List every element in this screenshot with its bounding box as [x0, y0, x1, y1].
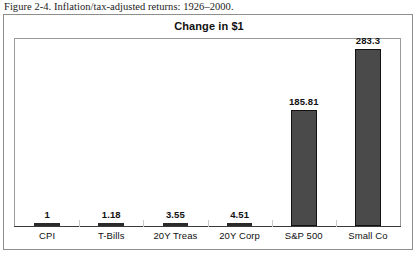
- bar-value-label: 283.3: [356, 35, 380, 46]
- bar-rect: [291, 110, 317, 226]
- bar-small-co: [355, 39, 381, 226]
- figure-box: Change in $1 11.183.554.51185.81283.3 CP…: [3, 14, 413, 250]
- bar-cpi: [34, 39, 60, 226]
- bar-value-label: 4.51: [230, 209, 249, 220]
- axis-tick: [143, 220, 144, 227]
- bar-value-label: 185.81: [289, 96, 319, 107]
- category-label-20y-treas: 20Y Treas: [143, 230, 207, 241]
- bar-20y-treas: [163, 39, 189, 226]
- bar-s-p-500: [291, 39, 317, 226]
- bar-rect: [163, 223, 189, 226]
- category-label-small-co: Small Co: [336, 230, 400, 241]
- figure-caption: Figure 2-4. Inflation/tax-adjusted retur…: [4, 0, 416, 13]
- bar-rect: [355, 49, 381, 226]
- chart-title: Change in $1: [4, 20, 414, 32]
- category-label-20y-corp: 20Y Corp: [208, 230, 272, 241]
- bar-20y-corp: [227, 39, 253, 226]
- bar-value-label: 3.55: [166, 209, 185, 220]
- bar-value-label: 1: [44, 209, 49, 220]
- category-label-cpi: CPI: [15, 230, 79, 241]
- axis-tick: [336, 220, 337, 227]
- bar-t-bills: [98, 39, 124, 226]
- bar-rect: [98, 223, 124, 226]
- bars-layer: 11.183.554.51185.81283.3: [15, 39, 400, 226]
- axis-tick: [272, 220, 273, 227]
- bar-value-label: 1.18: [102, 209, 121, 220]
- category-label-t-bills: T-Bills: [79, 230, 143, 241]
- category-labels: CPIT-Bills20Y Treas20Y CorpS&P 500Small …: [15, 230, 400, 246]
- axis-tick: [79, 220, 80, 227]
- axis-tick: [208, 220, 209, 227]
- category-label-s-p-500: S&P 500: [272, 230, 336, 241]
- figure-page: Figure 2-4. Inflation/tax-adjusted retur…: [0, 0, 420, 254]
- bar-rect: [34, 223, 60, 226]
- bar-rect: [227, 223, 253, 226]
